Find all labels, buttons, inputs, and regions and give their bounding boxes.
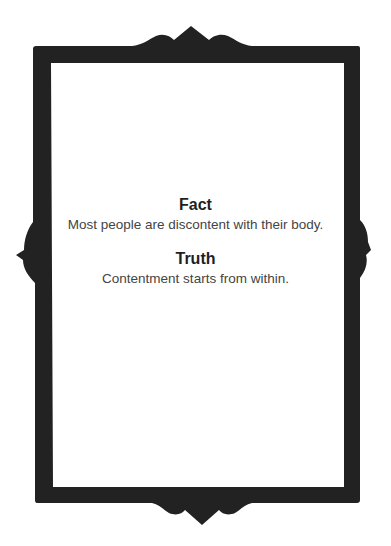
fact-text: Most people are discontent with their bo… (0, 217, 391, 233)
fact-heading: Fact (0, 196, 391, 214)
truth-section: Truth Contentment starts from within. (0, 250, 391, 287)
truth-heading: Truth (0, 250, 391, 268)
fact-section: Fact Most people are discontent with the… (0, 196, 391, 233)
truth-text: Contentment starts from within. (0, 271, 391, 287)
